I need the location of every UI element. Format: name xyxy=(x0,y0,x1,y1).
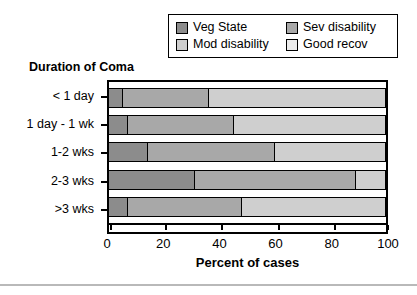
legend-item-good-recov: Good recov xyxy=(286,38,398,51)
x-axis-tick-4 xyxy=(334,225,336,230)
legend-grid: Veg State Sev disability Mod disability … xyxy=(176,19,392,53)
x-axis-title: Percent of cases xyxy=(107,255,388,270)
legend-label-mod-disability: Mod disability xyxy=(193,38,269,51)
legend-item-sev-disability: Sev disability xyxy=(286,21,398,34)
bar-segment-sev-disability xyxy=(148,142,275,162)
x-axis-label-2: 40 xyxy=(212,236,226,251)
y-axis-tick-labels: < 1 day1 day - 1 wk1-2 wks2-3 wks>3 wks xyxy=(3,80,103,225)
x-axis-tick-2 xyxy=(221,225,223,230)
legend-swatch-veg-state xyxy=(176,22,188,34)
x-axis-label-4: 80 xyxy=(325,236,339,251)
y-axis-title: Duration of Coma xyxy=(29,60,134,74)
x-axis-tick-1 xyxy=(165,225,167,230)
bar-segment-veg-state xyxy=(109,115,128,135)
bar-row xyxy=(109,197,386,217)
bar-segment-veg-state xyxy=(109,88,123,108)
legend-swatch-sev-disability xyxy=(286,22,298,34)
y-axis-label-3: 2-3 wks xyxy=(3,171,103,191)
legend-swatch-mod-disability xyxy=(176,39,188,51)
bar-segment-mod-disability xyxy=(242,197,386,217)
bar-segment-mod-disability xyxy=(275,142,386,162)
bar-row xyxy=(109,170,386,190)
x-axis-tick-0 xyxy=(110,225,112,230)
bar-row xyxy=(109,88,386,108)
x-axis-label-3: 60 xyxy=(268,236,282,251)
bar-series-container xyxy=(109,82,386,223)
bar-segment-sev-disability xyxy=(128,197,242,217)
x-axis-label-5: 100 xyxy=(377,236,399,251)
bar-segment-sev-disability xyxy=(195,170,356,190)
y-axis-label-1: 1 day - 1 wk xyxy=(3,114,103,134)
bar-row xyxy=(109,115,386,135)
plot-area xyxy=(107,80,388,225)
legend-label-good-recov: Good recov xyxy=(303,38,368,51)
bar-segment-mod-disability xyxy=(356,170,386,190)
bar-segment-veg-state xyxy=(109,142,148,162)
bar-segment-sev-disability xyxy=(123,88,209,108)
bar-segment-mod-disability xyxy=(209,88,386,108)
bar-row xyxy=(109,142,386,162)
x-axis-tick-5 xyxy=(387,225,389,230)
legend-label-veg-state: Veg State xyxy=(193,21,247,34)
y-axis-label-2: 1-2 wks xyxy=(3,142,103,162)
x-axis-band xyxy=(107,225,388,234)
x-axis-tick-labels: 020406080100 xyxy=(107,236,388,252)
legend-swatch-good-recov xyxy=(286,39,298,51)
bar-segment-veg-state xyxy=(109,197,128,217)
chart-plot-wrapper: < 1 day1 day - 1 wk1-2 wks2-3 wks>3 wks … xyxy=(107,80,388,233)
legend-item-mod-disability: Mod disability xyxy=(176,38,286,51)
y-axis-label-0: < 1 day xyxy=(3,86,103,106)
bar-segment-veg-state xyxy=(109,170,195,190)
legend-label-sev-disability: Sev disability xyxy=(303,21,376,34)
x-axis-tick-3 xyxy=(278,225,280,230)
y-axis-label-4: >3 wks xyxy=(3,199,103,219)
x-axis-label-0: 0 xyxy=(103,236,110,251)
chart-legend: Veg State Sev disability Mod disability … xyxy=(168,14,398,58)
legend-item-veg-state: Veg State xyxy=(176,21,286,34)
x-axis-label-1: 20 xyxy=(156,236,170,251)
bar-segment-mod-disability xyxy=(234,115,386,135)
bottom-divider xyxy=(0,284,417,286)
bar-segment-sev-disability xyxy=(128,115,233,135)
